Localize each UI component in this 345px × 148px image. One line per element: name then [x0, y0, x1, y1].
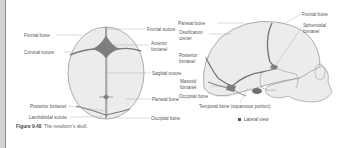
label-parietal-bone: Parietal bone — [152, 97, 179, 102]
label-lateral-posterior-fontanel-line2: fontanel — [179, 59, 195, 64]
label-lateral-frontal-bone: Frontal bone — [302, 12, 328, 17]
label-ossification-center-line2: center — [179, 36, 192, 41]
figure-number: Figure 9.48 — [16, 124, 41, 129]
figure-caption-text: The newborn's skull. — [44, 124, 88, 129]
label-lateral-parietal-bone: Parietal bone — [178, 21, 205, 26]
label-sphenoidal-fontanel-line2: fontanel — [303, 29, 319, 34]
label-sphenoidal-fontanel-line1: Sphenoidal — [303, 23, 326, 28]
label-sagittal-suture: Sagittal suture — [152, 71, 181, 76]
label-occipital-bone: Occipital bone — [151, 116, 180, 121]
label-posterior-fontanel: Posterior fontanel — [30, 104, 66, 109]
label-lambdoidal-suture: Lambdoidal suture — [29, 115, 67, 120]
label-frontal-bone: Frontal bone — [24, 33, 50, 38]
label-lateral-posterior-fontanel-line1: Posterior — [179, 53, 197, 58]
panel-b-title: Lateral view — [244, 117, 269, 122]
label-ossification-center-line1: Ossification — [179, 30, 203, 35]
label-temporal-bone: Temporal bone (squamous portion) — [199, 104, 270, 109]
figure-caption: Figure 9.48 The newborn's skull. — [16, 124, 88, 129]
label-anterior-fontanel-line1: Anterior — [151, 41, 167, 46]
label-lateral-occipital-bone: Occipital bone — [179, 94, 208, 99]
label-mastoid-fontanel-line1: Mastoid — [180, 79, 196, 84]
label-frontal-suture: Frontal suture — [147, 27, 175, 32]
label-mastoid-fontanel-line2: fontanel — [180, 85, 196, 90]
label-coronal-suture: Coronal suture — [24, 50, 54, 55]
panel-b-marker-box — [238, 118, 241, 121]
label-anterior-fontanel-line2: fontanel — [151, 47, 167, 52]
